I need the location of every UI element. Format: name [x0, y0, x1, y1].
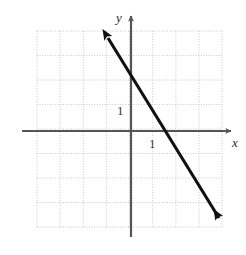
grid-lines [37, 31, 222, 227]
coordinate-plane-canvas [0, 0, 246, 255]
plotted-line [108, 38, 219, 218]
x-axis-label: x [232, 136, 238, 149]
x-axis-tick-label-one: 1 [149, 137, 156, 150]
graph-figure: y x 1 1 [0, 0, 246, 255]
y-axis-tick-label-one: 1 [117, 104, 124, 117]
y-axis-label: y [116, 11, 122, 24]
